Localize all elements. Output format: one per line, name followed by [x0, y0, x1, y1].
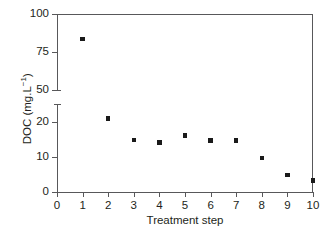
data-point	[285, 173, 289, 177]
data-point	[80, 37, 84, 41]
y-axis-lower-segment	[57, 104, 58, 192]
data-point	[311, 178, 315, 182]
data-point	[157, 140, 161, 144]
y-axis-title-base: DOC (mg.L	[21, 86, 33, 144]
x-tick-1	[83, 192, 84, 197]
data-point	[260, 156, 264, 160]
x-axis-title: Treatment step	[57, 215, 313, 227]
x-tick-3	[134, 192, 135, 197]
y-axis-upper-segment	[57, 14, 58, 90]
y-tick-10	[52, 157, 57, 158]
chart-figure: 100 75 50 20 10 0 012345678910 Treatment…	[0, 0, 332, 235]
plot-frame	[57, 14, 313, 192]
y-axis-break-cap-upper	[54, 90, 61, 91]
x-tick-10	[313, 192, 314, 197]
x-tick-8	[262, 192, 263, 197]
y-axis-break-cap-lower	[54, 104, 61, 105]
data-point	[183, 133, 187, 137]
data-point	[234, 138, 238, 142]
x-tick-label-10: 10	[298, 200, 328, 212]
x-tick-7	[236, 192, 237, 197]
y-tick-20	[52, 122, 57, 123]
y-axis-title-exponent: −1	[19, 77, 28, 86]
y-axis-title: DOC (mg.L−1)	[22, 19, 34, 199]
data-point	[132, 138, 136, 142]
y-axis-title-tail: )	[21, 73, 33, 77]
y-tick-100	[52, 14, 57, 15]
x-tick-6	[211, 192, 212, 197]
x-tick-2	[108, 192, 109, 197]
x-tick-0	[57, 192, 58, 197]
data-point	[106, 116, 110, 120]
data-point	[208, 138, 212, 142]
x-tick-9	[287, 192, 288, 197]
x-tick-4	[159, 192, 160, 197]
x-tick-5	[185, 192, 186, 197]
y-tick-75	[52, 52, 57, 53]
